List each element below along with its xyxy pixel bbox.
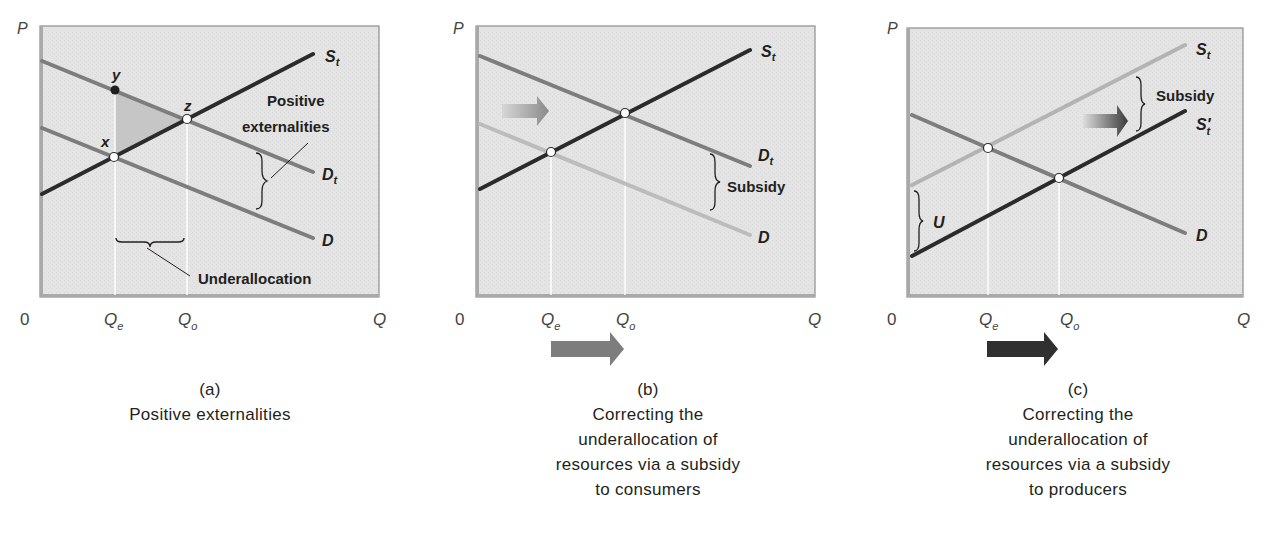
caption-line: to consumers	[528, 477, 768, 502]
caption-line: Correcting the	[528, 402, 768, 427]
caption-line: resources via a subsidy	[528, 452, 768, 477]
panel-c: Subsidy U St S′t D P 0 Qe Qo Q	[887, 20, 1250, 366]
externalities-figure: y z x St Dt D Positive externalities Und…	[0, 0, 1265, 542]
tick-qe-a: Qe	[104, 310, 123, 332]
y-axis-label-a: P	[17, 20, 28, 37]
tick-qo-a: Qo	[178, 310, 197, 332]
point-market-eq-b	[547, 148, 556, 157]
plot-area-a	[40, 26, 379, 297]
caption-line: Positive externalities	[110, 402, 310, 427]
x-axis-c	[907, 294, 1243, 297]
caption-letter-c: (c)	[958, 377, 1198, 402]
annotation-subsidy-b: Subsidy	[727, 178, 786, 195]
point-optimal-eq-c	[1055, 174, 1064, 183]
point-y	[111, 86, 120, 95]
caption-a: (a) Positive externalities	[110, 377, 310, 427]
origin-label-a: 0	[20, 310, 29, 329]
origin-label-c: 0	[887, 310, 896, 329]
annotation-externalities: externalities	[242, 118, 330, 135]
y-axis-label-b: P	[453, 20, 464, 37]
annotation-positive: Positive	[267, 92, 325, 109]
x-axis-label-b: Q	[808, 310, 821, 329]
panel-b: Subsidy St Dt D P 0 Qe Qo Q	[453, 20, 821, 366]
y-axis-a	[40, 26, 43, 297]
point-market-eq-c	[984, 144, 993, 153]
caption-line: Correcting the	[958, 402, 1198, 427]
point-x	[110, 153, 119, 162]
tick-qe-b: Qe	[541, 310, 560, 332]
label-d-b: D	[758, 229, 770, 246]
tick-qo-c: Qo	[1060, 310, 1079, 332]
caption-line: underallocation of	[528, 427, 768, 452]
annotation-u: U	[933, 214, 945, 231]
x-axis-label-c: Q	[1237, 310, 1250, 329]
tick-qo-b: Qo	[616, 310, 635, 332]
y-axis-b	[476, 26, 479, 297]
caption-letter-a: (a)	[110, 377, 310, 402]
origin-label-b: 0	[455, 310, 464, 329]
annotation-underallocation: Underallocation	[198, 270, 311, 287]
caption-line: underallocation of	[958, 427, 1198, 452]
x-axis-b	[476, 294, 815, 297]
panel-a: y z x St Dt D Positive externalities Und…	[17, 20, 386, 332]
point-optimal-eq-b	[621, 109, 630, 118]
label-d-a: D	[322, 232, 334, 249]
caption-c: (c) Correcting the underallocation of re…	[958, 377, 1198, 502]
quantity-increase-arrow-c-icon	[987, 332, 1058, 366]
caption-line: to producers	[958, 477, 1198, 502]
x-axis-a	[40, 294, 379, 297]
label-y: y	[111, 66, 121, 83]
tick-qe-c: Qe	[979, 310, 998, 332]
quantity-increase-arrow-b-icon	[551, 332, 624, 366]
y-axis-label-c: P	[887, 20, 898, 37]
x-axis-label-a: Q	[373, 310, 386, 329]
label-z: z	[183, 97, 192, 114]
point-z	[183, 115, 192, 124]
caption-b: (b) Correcting the underallocation of re…	[528, 377, 768, 502]
caption-letter-b: (b)	[528, 377, 768, 402]
caption-line: resources via a subsidy	[958, 452, 1198, 477]
y-axis-c	[907, 28, 910, 297]
annotation-subsidy-c: Subsidy	[1156, 87, 1215, 104]
label-d-c: D	[1196, 227, 1208, 244]
label-x: x	[100, 133, 110, 150]
